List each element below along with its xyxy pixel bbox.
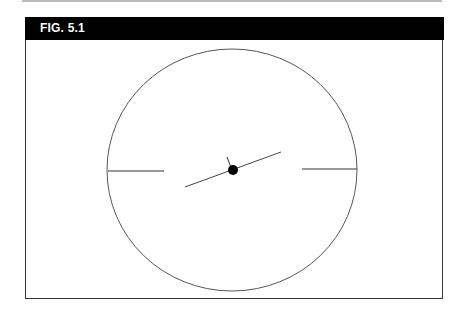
pivot-hub [228,165,238,175]
dial-diagram [0,0,459,313]
